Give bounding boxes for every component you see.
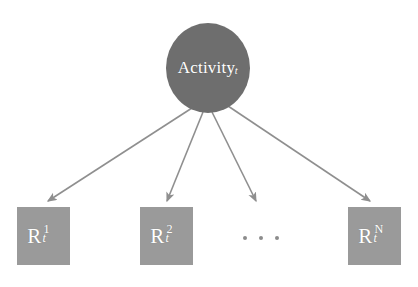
ellipsis-dot xyxy=(275,236,279,240)
leaf-node-shape-rn[interactable] xyxy=(348,207,401,265)
diagram-canvas: Activityt R1t R2t RNt xyxy=(0,0,418,287)
edge-activity-to-r2 xyxy=(167,112,203,201)
leaf-node-shape-r2[interactable] xyxy=(140,207,193,265)
leaf-node-shape-r1[interactable] xyxy=(17,207,70,265)
ellipsis-dot xyxy=(259,236,263,240)
edge-group xyxy=(48,106,370,201)
edge-activity-to-r1 xyxy=(48,108,192,201)
activity-node-shape[interactable] xyxy=(166,23,250,113)
edge-activity-to-omitted xyxy=(212,112,256,201)
diagram-svg xyxy=(0,0,418,287)
ellipsis-indicator xyxy=(243,228,279,248)
ellipsis-dot xyxy=(243,236,247,240)
